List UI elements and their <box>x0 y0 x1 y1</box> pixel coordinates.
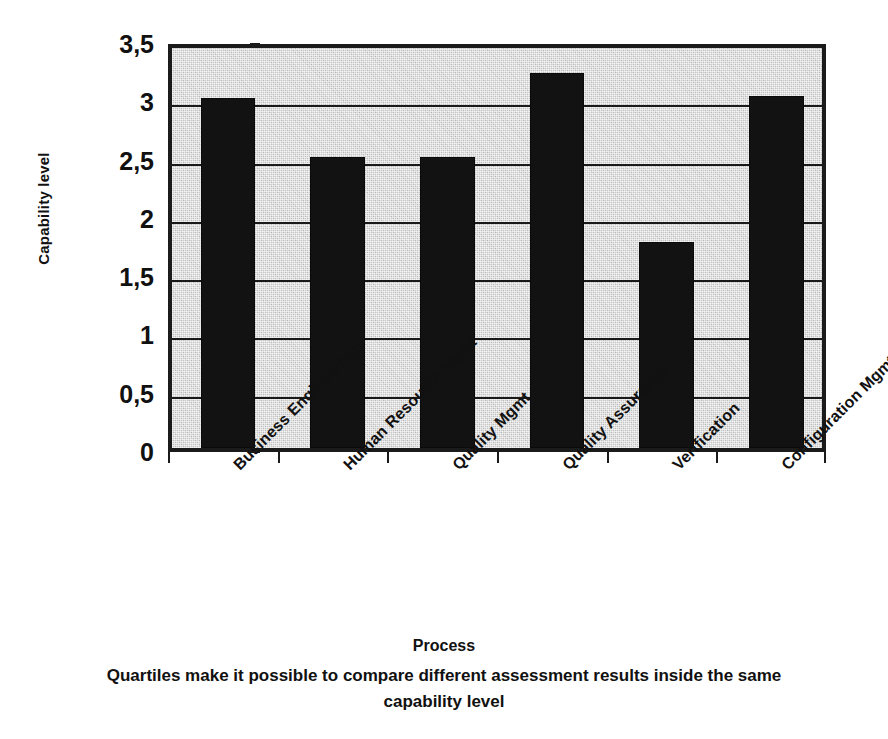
gridline <box>172 164 822 166</box>
figure-caption-line-2: capability level <box>60 689 828 715</box>
x-axis-category-label: Configuration Mgmt <box>778 461 791 474</box>
x-axis-category-label: Verification <box>669 461 682 474</box>
bar <box>530 73 585 448</box>
y-axis-tick-label: 2 <box>92 206 154 231</box>
y-axis-tick-label: 1 <box>92 323 154 348</box>
gridline <box>172 338 822 340</box>
figure-caption: Quartiles make it possible to compare di… <box>60 663 828 716</box>
figure-caption-line-1: Quartiles make it possible to compare di… <box>60 663 828 689</box>
bar <box>749 96 804 448</box>
plot-inner <box>172 48 822 448</box>
bar-chart-figure: Capability level 00,511,522,533,5 Busine… <box>0 0 888 739</box>
x-axis-category-labels: Business EngineeringHuman Resource MgmtQ… <box>0 455 888 630</box>
bar <box>310 157 365 448</box>
x-axis-category-label: Quality Mgmt <box>449 461 462 474</box>
bar <box>201 98 256 448</box>
gridline <box>172 397 822 399</box>
y-axis-tick-label: 3,5 <box>92 32 154 57</box>
y-axis-tick-labels: 00,511,522,533,5 <box>92 44 154 452</box>
bar <box>420 157 475 448</box>
x-axis-category-label: Quality Assurance <box>559 461 572 474</box>
gridline <box>172 280 822 282</box>
y-axis-tick-label: 2,5 <box>92 148 154 173</box>
y-axis-title: Capability level <box>35 119 52 299</box>
x-axis-title: Process <box>0 637 888 655</box>
y-axis-tick-label: 3 <box>92 90 154 115</box>
gridline <box>172 105 822 107</box>
bar <box>639 242 694 448</box>
x-axis-category-label: Human Resource Mgmt <box>340 461 353 474</box>
plot-area <box>168 44 826 452</box>
y-axis-tick-label: 1,5 <box>92 265 154 290</box>
x-axis-category-label: Business Engineering <box>230 461 243 474</box>
gridline <box>172 222 822 224</box>
y-axis-tick-label: 0,5 <box>92 381 154 406</box>
